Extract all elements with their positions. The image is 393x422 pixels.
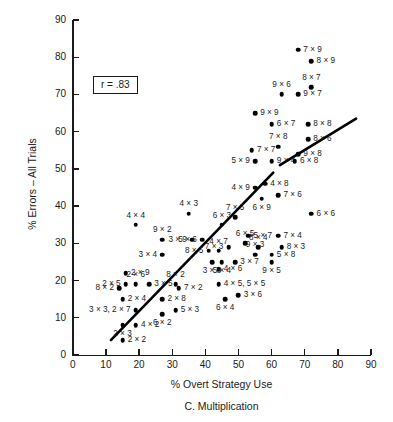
data-point-label: 6 × 4: [216, 304, 234, 313]
data-point-label: 7 × 2: [184, 284, 202, 293]
data-point-label: 5 × 3: [181, 306, 199, 315]
data-point-label: 7 × 4: [283, 232, 301, 241]
data-point-label: 5 × 9: [231, 157, 249, 166]
y-tick-mark: [73, 131, 79, 132]
data-point-label: 3 × 4: [139, 250, 157, 259]
data-point: [133, 222, 138, 227]
data-point-label: 3 × 3, 2 × 7: [89, 306, 130, 315]
x-tick-label: 70: [290, 360, 320, 370]
correlation-annotation-box: r = .83: [93, 76, 138, 94]
data-point-label: 8 × 8: [313, 120, 331, 129]
data-point-label: 9 × 9: [260, 109, 278, 118]
data-point: [269, 252, 274, 257]
y-tick-label: 10: [36, 313, 66, 323]
data-point-label: 6 × 5: [236, 230, 254, 239]
x-tick-mark: [370, 349, 371, 355]
data-point: [246, 234, 251, 239]
y-tick-mark: [73, 57, 79, 58]
data-point: [177, 286, 182, 291]
y-tick-mark: [73, 168, 79, 169]
x-axis-line: [72, 355, 371, 357]
data-point-label: 9 × 7: [303, 90, 321, 99]
data-point: [276, 144, 281, 149]
data-point: [200, 237, 205, 242]
data-point: [216, 282, 221, 287]
data-point-label: 4 × 4: [127, 211, 145, 220]
data-point-label: 5 × 8: [277, 250, 295, 259]
data-point: [256, 245, 261, 250]
data-point: [233, 215, 238, 220]
data-point-label: 8 × 3: [287, 243, 305, 252]
y-axis-line: [72, 20, 74, 356]
x-tick-label: 10: [91, 360, 121, 370]
data-point: [249, 148, 254, 153]
data-point: [133, 308, 138, 313]
y-tick-label: 30: [36, 238, 66, 248]
data-point: [120, 323, 125, 328]
data-point: [124, 282, 129, 287]
y-tick-label: 70: [36, 89, 66, 99]
x-tick-label: 0: [58, 360, 88, 370]
data-point-label: 9 × 5: [262, 267, 280, 276]
y-tick-label: 0: [36, 350, 66, 360]
data-point: [279, 92, 284, 97]
y-tick-mark: [73, 317, 79, 318]
data-point-label: 4 × 9: [231, 183, 249, 192]
data-point-label: 7 × 8: [269, 133, 287, 142]
x-axis-title: % Overt Strategy Use: [72, 378, 371, 390]
x-tick-mark: [238, 349, 239, 355]
data-point-label: 9 × 6: [272, 81, 290, 90]
data-point: [309, 59, 314, 64]
x-tick-label: 50: [223, 360, 253, 370]
data-point: [243, 241, 248, 246]
data-point: [269, 159, 274, 164]
data-point-label: 2 × 5: [102, 280, 120, 289]
data-point-label: 3 × 7: [240, 258, 258, 267]
data-point: [236, 293, 241, 298]
data-point: [133, 323, 138, 328]
x-tick-mark: [271, 349, 272, 355]
y-tick-label: 80: [36, 52, 66, 62]
data-point-label: 3 × 5: [154, 280, 172, 289]
data-point-label: 7 × 7: [257, 146, 275, 155]
data-point-label: 3 × 6: [244, 291, 262, 300]
data-point: [253, 252, 258, 257]
data-point-label: 7 × 3: [205, 243, 223, 252]
data-point-label: 9 × 3: [246, 241, 264, 250]
data-point: [259, 196, 264, 201]
x-tick-label: 80: [323, 360, 353, 370]
data-point-label: 8 × 6: [313, 135, 331, 144]
data-point: [147, 282, 152, 287]
data-point-label: 2 × 3: [113, 330, 131, 339]
data-point: [253, 111, 258, 116]
y-tick-mark: [73, 243, 79, 244]
data-point-label: 9 × 8: [303, 150, 321, 159]
x-tick-mark: [337, 349, 338, 355]
data-point-label: 6 × 3: [213, 211, 231, 220]
data-point: [306, 137, 311, 142]
data-point: [309, 85, 314, 90]
data-point: [226, 245, 231, 250]
data-point: [173, 308, 178, 313]
data-point-label: 8 × 2: [166, 271, 184, 280]
data-point: [279, 245, 284, 250]
data-point-label: 7 × 6: [283, 191, 301, 200]
data-point: [160, 297, 165, 302]
data-point: [263, 181, 268, 186]
data-point-label: 7 × 5: [226, 204, 244, 213]
data-point: [276, 234, 281, 239]
data-point: [296, 47, 301, 52]
y-tick-label: 60: [36, 127, 66, 137]
x-tick-label: 20: [124, 360, 154, 370]
y-tick-mark: [73, 94, 79, 95]
data-point-label: 4 × 3: [180, 200, 198, 209]
y-tick-mark: [73, 354, 79, 355]
y-tick-label: 40: [36, 201, 66, 211]
data-point: [124, 271, 129, 276]
data-point-label: 8 × 9: [317, 57, 335, 66]
data-point: [276, 193, 281, 198]
data-point: [160, 237, 165, 242]
data-point-label: 7 × 9: [303, 46, 321, 55]
data-point-label: 8 × 5: [185, 247, 203, 256]
y-tick-mark: [73, 280, 79, 281]
